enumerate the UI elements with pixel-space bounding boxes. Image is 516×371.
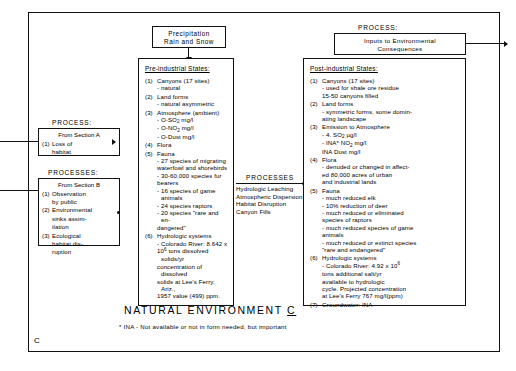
process-middle-lines: Hydrologic LeachingAtmospheric Dispersio… bbox=[236, 185, 304, 215]
state-sub-item: - 16 species of game animals bbox=[157, 187, 228, 202]
list-item: ruption bbox=[42, 248, 116, 255]
state-sub-item: ating landscape bbox=[322, 115, 460, 122]
corner-label: C bbox=[34, 336, 40, 345]
process-top-line-1: Inputs to Environmental bbox=[335, 37, 465, 45]
state-item: (7)Groundwater: INA bbox=[310, 301, 460, 308]
state-sub-list: - natural bbox=[157, 84, 228, 91]
state-sub-item: - O-NO2 mg/l bbox=[157, 124, 228, 132]
state-sub-list: - Colorado River: 8.642 x106 tons dissol… bbox=[157, 240, 228, 300]
state-sub-item: - natural asymmetric bbox=[157, 100, 228, 107]
state-sub-item: 1957 value (499) ppm. bbox=[157, 292, 228, 299]
state-sub-item: at Lee's Ferry 767 mg/l(ppm) bbox=[322, 292, 460, 299]
process-top-box: Inputs to Environmental Consequences bbox=[334, 33, 466, 55]
state-item: (1)Canyons (17 sites)- natural bbox=[145, 77, 228, 92]
process-line: Habitat Disruption bbox=[236, 200, 304, 208]
state-sub-item: - much reduced or eliminated bbox=[322, 209, 460, 216]
state-item: (2)Land forms- symmetric forms, some dom… bbox=[310, 100, 460, 122]
state-sub-item: dangered" bbox=[157, 224, 228, 231]
state-sub-item: - used for shale ore residue bbox=[322, 84, 460, 91]
state-sub-item: - much reduced elk bbox=[322, 194, 460, 201]
list-item: (3)Ecological bbox=[42, 232, 116, 239]
post-industrial-title: Post-industrial States: bbox=[310, 65, 460, 72]
state-sub-item: - much reduced species of game bbox=[322, 224, 460, 231]
state-sub-item: cycle. Projected concentration bbox=[322, 285, 460, 292]
state-sub-item: - 27 species of migrating bbox=[157, 157, 228, 164]
process-middle-rule bbox=[236, 183, 304, 184]
list-item: by public bbox=[42, 198, 116, 205]
state-sub-item: INA Dust mg/l bbox=[322, 148, 460, 155]
state-sub-item: - O-SO2 mg/l bbox=[157, 116, 228, 124]
state-sub-item: - Colorado River: 4.92 x 106 bbox=[322, 262, 460, 270]
process-a-box: From Section A (1)Loss ofhabitat bbox=[38, 128, 120, 156]
precipitation-line-1: Precipitation bbox=[153, 30, 225, 38]
state-sub-item: - 10% reduction of deer bbox=[322, 202, 460, 209]
process-middle-caption: PROCESSES bbox=[236, 174, 304, 181]
state-item: (4)Flora- denuded or changed in affect-e… bbox=[310, 156, 460, 186]
state-item: (6)Hydrologic systems- Colorado River: 4… bbox=[310, 254, 460, 299]
process-middle-block: PROCESSES Hydrologic LeachingAtmospheric… bbox=[236, 174, 304, 215]
process-top-caption: PROCESS: bbox=[358, 24, 398, 31]
process-top-out-arrow-icon bbox=[504, 41, 508, 47]
process-a-header: From Section A bbox=[42, 131, 116, 139]
state-sub-item: and industrial lands bbox=[322, 178, 460, 185]
process-b-caption: PROCESSES: bbox=[48, 169, 98, 176]
state-sub-item: animals bbox=[322, 231, 460, 238]
list-item: sinks assim- bbox=[42, 215, 116, 222]
state-sub-item: bearers bbox=[157, 179, 228, 186]
state-sub-list: - 27 species of migratingwaterfowl and s… bbox=[157, 157, 228, 231]
post-industrial-column: Post-industrial States: (1)Canyons (17 s… bbox=[303, 58, 466, 306]
state-item: (3)Emission to Atmosphere- 4. SO2 µg/l- … bbox=[310, 123, 460, 155]
state-item: (4)Flora bbox=[145, 141, 228, 148]
state-sub-list: - denuded or changed in affect-ed 80,000… bbox=[322, 163, 460, 185]
state-sub-item: - much reduced or extinct species bbox=[322, 239, 460, 246]
state-item: (6)Hydrologic systems- Colorado River: 8… bbox=[145, 232, 228, 300]
precipitation-line-2: Rain and Snow bbox=[153, 38, 225, 46]
state-sub-item: - symmetric forms, some domin- bbox=[322, 108, 460, 115]
diagram-canvas: C Precipitation Rain and Snow PROCESS: I… bbox=[0, 0, 516, 371]
precipitation-box: Precipitation Rain and Snow bbox=[152, 26, 226, 48]
state-sub-item: 106 tons dissolved solids/yr bbox=[157, 247, 228, 263]
process-line: Atmospheric Dispersion bbox=[236, 193, 304, 201]
state-sub-list: - 4. SO2 µg/l- INA* NO2 mg/lINA Dust mg/… bbox=[322, 131, 460, 155]
list-item: habitat dis- bbox=[42, 240, 116, 247]
state-sub-item: - INA* NO2 mg/l bbox=[322, 139, 460, 147]
process-b-list: (1)Observationby public(2)Environmentals… bbox=[42, 190, 116, 256]
process-a-list: (1)Loss ofhabitat bbox=[42, 140, 116, 156]
state-sub-list: - symmetric forms, some domin-ating land… bbox=[322, 108, 460, 123]
state-sub-list: - much reduced elk- 10% reduction of dee… bbox=[322, 194, 460, 253]
process-b-header: From Section B bbox=[42, 181, 116, 189]
process-top-out-line bbox=[466, 43, 506, 44]
list-item: ilation bbox=[42, 223, 116, 230]
process-b-box: From Section B (1)Observationby public(2… bbox=[38, 178, 120, 246]
state-sub-item: "rare and endangered" bbox=[322, 246, 460, 253]
state-sub-item: - 4. SO2 µg/l bbox=[322, 131, 460, 139]
state-sub-item: - 24 species raptors bbox=[157, 202, 228, 209]
state-sub-item: 15-50 canyons filled bbox=[322, 92, 460, 99]
state-item: (2)Land forms- natural asymmetric bbox=[145, 93, 228, 108]
state-sub-item: ed 80,000 acres of urban bbox=[322, 171, 460, 178]
state-sub-item: - Colorado River: 8.642 x bbox=[157, 240, 228, 247]
process-a-caption: PROCESS: bbox=[52, 119, 92, 126]
state-sub-item: species of raptors bbox=[322, 216, 460, 223]
state-item: (3)Atmosphere (ambient)- O-SO2 mg/l- O-N… bbox=[145, 109, 228, 141]
post-industrial-list: (1)Canyons (17 sites)- used for shale or… bbox=[310, 77, 460, 308]
state-item: (1)Canyons (17 sites)- used for shale or… bbox=[310, 77, 460, 99]
state-sub-list: - Colorado River: 4.92 x 106tons additio… bbox=[322, 262, 460, 300]
pre-industrial-list: (1)Canyons (17 sites)- natural(2)Land fo… bbox=[145, 77, 228, 300]
list-item: (1)Loss of bbox=[42, 140, 116, 147]
list-item: (1)Observation bbox=[42, 190, 116, 197]
page-title-letter: C bbox=[287, 304, 296, 316]
list-item: habitat bbox=[42, 148, 116, 155]
state-sub-item: waterfowl and shorebirds bbox=[157, 164, 228, 171]
state-sub-list: - used for shale ore residue15-50 canyon… bbox=[322, 84, 460, 99]
process-line: Canyon Fills bbox=[236, 208, 304, 216]
state-sub-item: - denuded or changed in affect- bbox=[322, 163, 460, 170]
state-sub-list: - O-SO2 mg/l- O-NO2 mg/l- O-Dust mg/l bbox=[157, 116, 228, 140]
state-item: (5)Fauna- 27 species of migratingwaterfo… bbox=[145, 150, 228, 231]
process-b-in-line bbox=[0, 190, 38, 191]
page-title: NATURAL ENVIRONMENT C bbox=[124, 304, 296, 316]
process-a-arrow-icon bbox=[112, 139, 116, 145]
process-line: Hydrologic Leaching bbox=[236, 185, 304, 193]
pre-industrial-column: Pre-industrial States: (1)Canyons (17 si… bbox=[138, 58, 234, 306]
state-item: (5)Fauna- much reduced elk- 10% reductio… bbox=[310, 187, 460, 254]
